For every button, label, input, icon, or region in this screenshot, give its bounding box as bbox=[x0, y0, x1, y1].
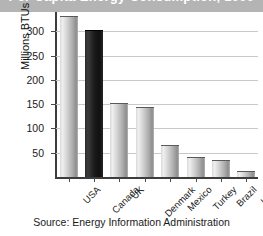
chart-title: Per Capita Energy Consumption, 1999 bbox=[0, 0, 263, 4]
x-axis-tick bbox=[246, 178, 247, 182]
bar-usa bbox=[60, 16, 78, 177]
x-axis-tick bbox=[196, 178, 197, 182]
chart-figure: Per Capita Energy Consumption, 1999 5010… bbox=[0, 0, 263, 236]
x-axis-tick bbox=[170, 178, 171, 182]
y-axis-tick-label: 150 bbox=[26, 98, 44, 110]
x-axis-label-usa: USA bbox=[80, 184, 102, 206]
y-axis-tick-label: 100 bbox=[26, 122, 44, 134]
y-axis-tick-label-wrap: 200 bbox=[51, 80, 52, 81]
y-axis-tick-label-wrap: 250 bbox=[51, 56, 52, 57]
y-axis-tick-label-wrap: 50 bbox=[51, 153, 52, 154]
x-axis-tick bbox=[69, 178, 70, 182]
y-axis-title: Millions BTUs bbox=[19, 3, 31, 70]
plot-area: 50100150200250300 USACanadaUKDenmarkMexi… bbox=[55, 12, 258, 178]
bar-mexico bbox=[161, 145, 179, 177]
bar-india bbox=[237, 171, 255, 177]
y-axis-tick-label-wrap: 100 bbox=[51, 128, 52, 129]
source-caption: Source: Energy Information Administratio… bbox=[0, 216, 263, 228]
y-axis-tick-label-wrap: 300 bbox=[51, 31, 52, 32]
bar-turkey bbox=[187, 157, 205, 177]
bar-canada bbox=[85, 30, 103, 177]
x-axis-label-turkey: Turkey bbox=[210, 184, 238, 212]
y-axis-tick-label: 200 bbox=[26, 74, 44, 86]
x-axis-label-brazil: Brazil bbox=[234, 184, 259, 209]
x-axis-tick bbox=[221, 178, 222, 182]
y-axis-tick-label-wrap: 150 bbox=[51, 104, 52, 105]
x-axis-label-india: India bbox=[258, 184, 263, 206]
x-axis-tick bbox=[94, 178, 95, 182]
x-axis-tick bbox=[145, 178, 146, 182]
x-axis-line bbox=[55, 177, 258, 179]
x-axis-tick bbox=[119, 178, 120, 182]
bar-uk bbox=[110, 103, 128, 177]
bar-brazil bbox=[212, 160, 230, 177]
bar-denmark bbox=[136, 107, 154, 177]
y-axis-tick-label: 50 bbox=[32, 147, 44, 159]
chart-title-band: Per Capita Energy Consumption, 1999 bbox=[0, 0, 263, 12]
